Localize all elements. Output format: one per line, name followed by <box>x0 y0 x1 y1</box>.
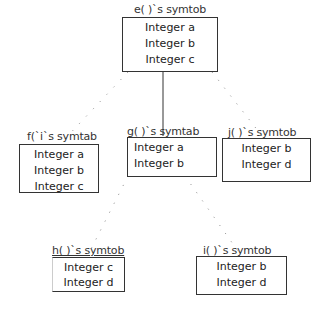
node-j: Integer b Integer d <box>222 138 311 182</box>
node-i-row: Integer d <box>216 275 266 291</box>
node-title-e: e( )`s symtob <box>134 4 206 16</box>
node-f-row: Integer c <box>34 179 83 195</box>
node-i-row: Integer b <box>216 259 266 275</box>
node-e: Integer a Integer b Integer c <box>122 17 218 72</box>
node-f-row: Integer a <box>34 147 84 163</box>
node-j-row: Integer d <box>241 157 291 173</box>
symbol-table-diagram: e( )`s symtob Integer a Integer b Intege… <box>0 0 325 311</box>
node-g-row: Integer b <box>134 156 184 172</box>
edge-g-i <box>185 176 240 254</box>
node-h: Integer c Integer d <box>52 257 125 292</box>
node-h-row: Integer d <box>63 275 113 290</box>
node-h-row: Integer c <box>64 260 113 275</box>
node-j-row: Integer b <box>241 141 291 157</box>
node-title-h: h( )`s symtob <box>52 245 124 257</box>
node-e-row: Integer c <box>145 52 194 68</box>
node-f: Integer a Integer b Integer c <box>19 144 99 193</box>
node-g: Integer a Integer b <box>127 137 217 177</box>
node-e-row: Integer b <box>145 36 195 52</box>
node-e-row: Integer a <box>145 20 195 36</box>
node-i: Integer b Integer d <box>196 256 287 295</box>
node-f-row: Integer b <box>34 163 84 179</box>
node-g-row: Integer a <box>134 140 184 156</box>
node-title-f: f(`i`s symtab <box>27 131 97 143</box>
